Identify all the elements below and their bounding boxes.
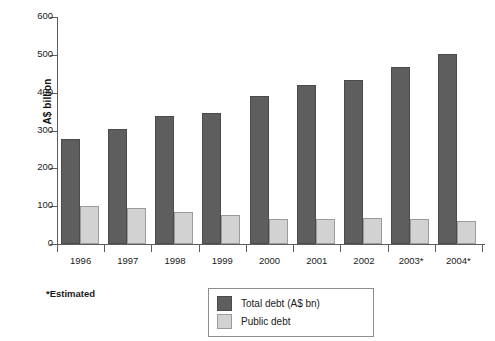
y-axis-tick-label: 300 xyxy=(37,124,53,135)
bar-public-debt xyxy=(221,215,240,244)
y-axis-tick-label: 0 xyxy=(48,237,53,248)
x-axis-divider-tick xyxy=(293,245,294,252)
x-axis-divider-tick xyxy=(104,245,105,252)
x-axis-divider-tick xyxy=(57,245,58,252)
legend-label-total-debt: Total debt (A$ bn) xyxy=(241,298,320,309)
x-axis-divider-tick xyxy=(246,245,247,252)
bar-total-debt xyxy=(250,96,269,244)
x-axis-tick-label: 2002 xyxy=(340,255,387,266)
bar-total-debt xyxy=(108,129,127,244)
y-axis-tick-label: 200 xyxy=(37,161,53,172)
x-axis-divider-tick xyxy=(151,245,152,252)
x-axis-tick-label: 2001 xyxy=(293,255,340,266)
bar-total-debt xyxy=(438,54,457,244)
x-axis-divider-tick xyxy=(340,245,341,252)
legend-label-public-debt: Public debt xyxy=(241,316,290,327)
x-axis-tick-label: 2003* xyxy=(388,255,435,266)
bar-public-debt xyxy=(316,219,335,244)
bar-total-debt xyxy=(155,116,174,244)
x-axis-line xyxy=(57,244,485,245)
y-axis-tick-label: 100 xyxy=(37,199,53,210)
bar-public-debt xyxy=(457,221,476,244)
x-axis-tick-label: 2000 xyxy=(246,255,293,266)
y-axis-tick-label: 400 xyxy=(37,86,53,97)
bar-total-debt xyxy=(297,85,316,244)
legend-item: Total debt (A$ bn) xyxy=(217,294,365,312)
plot-area: 6005004003002001000 xyxy=(57,17,482,244)
legend-swatch-total-debt xyxy=(217,296,232,311)
x-axis-tick-label: 1999 xyxy=(199,255,246,266)
bar-public-debt xyxy=(174,212,193,244)
x-axis-tick-label: 1996 xyxy=(57,255,104,266)
x-axis-divider-tick xyxy=(199,245,200,252)
bar-public-debt xyxy=(410,219,429,244)
y-axis-tick-label: 600 xyxy=(37,10,53,21)
x-axis-tick-label: 2004* xyxy=(435,255,482,266)
bar-public-debt xyxy=(80,206,99,244)
bar-chart: A$ billion 6005004003002001000 199619971… xyxy=(0,0,495,341)
bar-total-debt xyxy=(344,80,363,244)
legend-swatch-public-debt xyxy=(217,314,232,329)
bar-total-debt xyxy=(391,67,410,244)
x-axis-tick-label: 1997 xyxy=(104,255,151,266)
bar-total-debt xyxy=(61,139,80,244)
y-axis-tick-label: 500 xyxy=(37,48,53,59)
bar-public-debt xyxy=(363,218,382,244)
bar-public-debt xyxy=(269,219,288,244)
x-axis-divider-tick xyxy=(388,245,389,252)
chart-legend: Total debt (A$ bn) Public debt xyxy=(208,288,374,337)
footnote: *Estimated xyxy=(46,288,95,299)
x-axis-divider-tick xyxy=(435,245,436,252)
x-axis-divider-tick xyxy=(482,245,483,252)
x-axis-tick-label: 1998 xyxy=(151,255,198,266)
legend-item: Public debt xyxy=(217,312,365,330)
bar-public-debt xyxy=(127,208,146,244)
bar-total-debt xyxy=(202,113,221,244)
